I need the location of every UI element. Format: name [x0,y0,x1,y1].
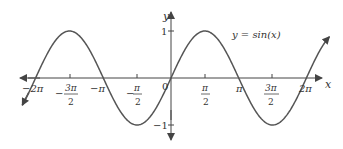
function-label: y = sin(x) [231,29,281,40]
tick-label-pi: π [235,83,243,94]
svg-text:3π: 3π [265,83,278,93]
svg-text:2: 2 [203,97,209,107]
svg-text:2: 2 [268,97,274,107]
origin-label: 0 [162,81,168,92]
y-tick-label-neg1: −1 [153,120,168,131]
svg-text:2: 2 [68,97,74,107]
x-axis-label: x [325,78,332,91]
svg-text:π: π [133,83,141,93]
tick-label-neg-pi-over-2: − π 2 [126,83,142,107]
svg-text:π: π [201,83,209,93]
tick-label-pi-over-2: π 2 [201,83,210,107]
y-tick-label-1: 1 [161,26,167,37]
y-axis-label: y [162,10,170,23]
tick-label-neg-2pi: −2π [22,83,44,94]
sine-graph: y x 1 −1 0 y = sin(x) −2π −π π 2π − 3π 2… [0,0,343,149]
tick-label-2pi: 2π [298,83,312,94]
tick-label-neg-3pi-over-2: − 3π 2 [55,83,78,107]
tick-label-3pi-over-2: 3π 2 [264,83,279,107]
svg-text:3π: 3π [65,83,78,93]
tick-label-neg-pi: −π [90,83,105,94]
svg-text:−: − [55,88,63,99]
sine-curve-left-arrow [22,93,28,106]
svg-text:2: 2 [135,97,141,107]
